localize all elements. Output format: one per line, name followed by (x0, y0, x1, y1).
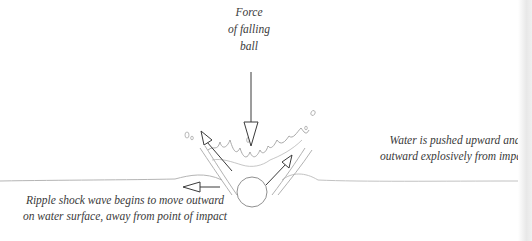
droplet (310, 110, 316, 117)
water-surface-right (282, 174, 520, 181)
splash-crown (208, 128, 309, 157)
force-arrow-icon (244, 72, 258, 146)
page-edge-shadow (518, 0, 532, 241)
splash-diagram (0, 0, 532, 241)
ball (237, 177, 267, 207)
droplet (191, 136, 194, 140)
ripple-outward-arrow-icon (183, 182, 220, 192)
splash-up-left-arrow-icon (201, 131, 232, 171)
droplet (305, 126, 308, 130)
splash-up-right-arrow-icon (266, 155, 292, 185)
droplet (185, 132, 189, 138)
water-surface-left (0, 175, 222, 181)
